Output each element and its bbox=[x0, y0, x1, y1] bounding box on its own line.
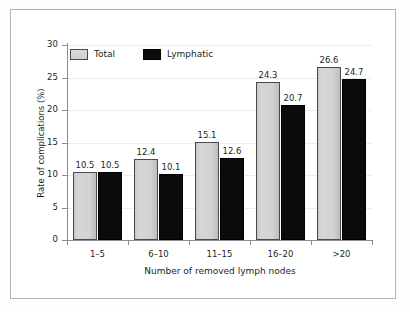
bar-total bbox=[256, 82, 280, 240]
legend-item-total: Total bbox=[70, 49, 115, 60]
bar-total bbox=[317, 67, 341, 240]
y-axis-tick-label: 20 bbox=[0, 104, 58, 114]
x-axis-tick bbox=[311, 240, 312, 245]
x-axis-tick bbox=[250, 240, 251, 245]
legend-label-lymphatic: Lymphatic bbox=[167, 49, 213, 59]
legend-label-total: Total bbox=[94, 49, 115, 59]
bar-total bbox=[195, 142, 219, 240]
y-axis-tick-label: 10 bbox=[0, 169, 58, 179]
x-axis-tick-label: >20 bbox=[311, 249, 372, 259]
y-axis-line bbox=[67, 43, 68, 242]
x-axis-tick bbox=[189, 240, 190, 245]
figure-canvas: Rate of complications (%) 051015202530 1… bbox=[0, 0, 410, 312]
x-axis-tick-label: 6–10 bbox=[128, 249, 189, 259]
bar-lymphatic bbox=[98, 172, 122, 240]
x-axis-tick bbox=[372, 240, 373, 245]
bar-value-label: 15.1 bbox=[192, 130, 222, 140]
legend-spacer bbox=[115, 54, 143, 55]
bar-value-label: 24.3 bbox=[253, 70, 283, 80]
x-axis-tick bbox=[67, 240, 68, 245]
y-axis-tick-label: 15 bbox=[0, 137, 58, 147]
bar-value-label: 12.4 bbox=[131, 147, 161, 157]
x-axis-title: Number of removed lymph nodes bbox=[67, 266, 373, 276]
bar-total bbox=[134, 159, 158, 240]
bar-lymphatic bbox=[281, 105, 305, 240]
bar-value-label: 26.6 bbox=[314, 55, 344, 65]
bar-value-label: 20.7 bbox=[278, 93, 308, 103]
bar-lymphatic bbox=[220, 158, 244, 240]
y-axis-tick-label: 5 bbox=[0, 202, 58, 212]
legend-item-lymphatic: Lymphatic bbox=[143, 49, 213, 60]
bar-value-label: 12.6 bbox=[217, 146, 247, 156]
x-axis-tick bbox=[128, 240, 129, 245]
bar-value-label: 10.1 bbox=[156, 162, 186, 172]
x-axis-tick-label: 16–20 bbox=[250, 249, 311, 259]
legend-swatch-total bbox=[70, 49, 88, 60]
y-axis-tick-label: 0 bbox=[0, 234, 58, 244]
y-axis-tick-label: 25 bbox=[0, 72, 58, 82]
bar-value-label: 10.5 bbox=[95, 160, 125, 170]
x-axis-tick-label: 11–15 bbox=[189, 249, 250, 259]
bar-value-label: 24.7 bbox=[339, 67, 369, 77]
y-axis-tick-label: 30 bbox=[0, 39, 58, 49]
x-axis-line bbox=[67, 240, 373, 241]
bar-total bbox=[73, 172, 97, 240]
chart-legend: Total Lymphatic bbox=[70, 44, 213, 64]
legend-swatch-lymphatic bbox=[143, 49, 161, 60]
x-axis-tick-label: 1–5 bbox=[67, 249, 128, 259]
bar-lymphatic bbox=[342, 79, 366, 240]
bar-lymphatic bbox=[159, 174, 183, 240]
